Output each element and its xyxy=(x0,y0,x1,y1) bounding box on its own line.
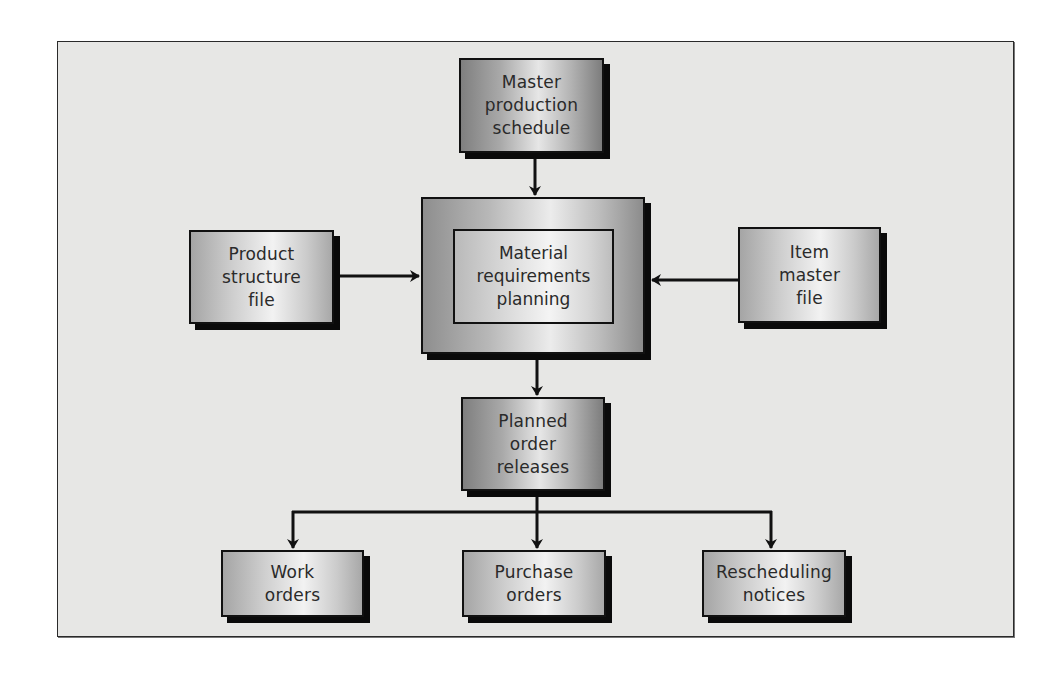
node-label: Material requirements planning xyxy=(477,242,591,311)
node-work-orders: Work orders xyxy=(221,550,364,617)
node-rescheduling-notices: Rescheduling notices xyxy=(702,550,846,617)
node-item-master-file: Item master file xyxy=(738,227,881,323)
node-label: Planned order releases xyxy=(497,410,569,479)
node-label: Rescheduling notices xyxy=(716,561,832,607)
mrp-inner-box: Material requirements planning xyxy=(453,229,614,324)
node-label: Item master file xyxy=(779,241,840,310)
node-label: Product structure file xyxy=(222,243,301,312)
node-label: Master production schedule xyxy=(485,71,578,140)
node-planned-order-releases: Planned order releases xyxy=(461,397,605,491)
node-label: Purchase orders xyxy=(495,561,574,607)
node-purchase-orders: Purchase orders xyxy=(462,550,606,617)
node-material-requirements-planning: Material requirements planning xyxy=(421,197,645,354)
node-label: Work orders xyxy=(265,561,320,607)
node-product-structure-file: Product structure file xyxy=(189,230,334,324)
node-master-production-schedule: Master production schedule xyxy=(459,58,604,153)
